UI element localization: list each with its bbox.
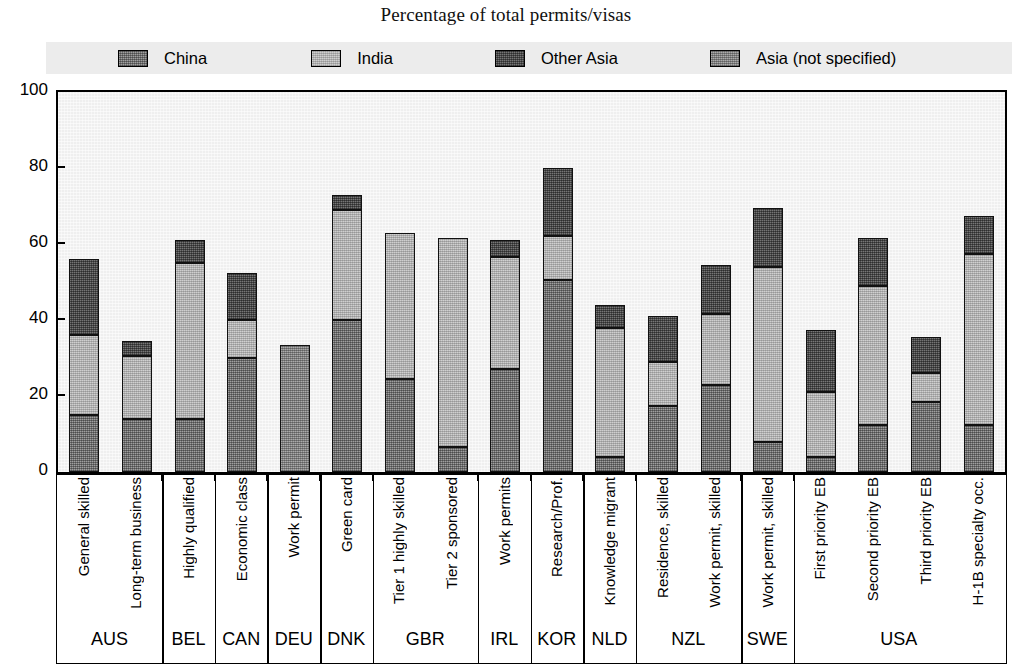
country-label: DNK xyxy=(320,617,373,661)
bar-stack[interactable] xyxy=(911,92,941,472)
bar-segment-india[interactable] xyxy=(332,210,362,320)
category-label: Residence, skilled xyxy=(636,475,689,618)
bar-segment-china[interactable] xyxy=(701,385,731,472)
bar-stack[interactable] xyxy=(701,92,731,472)
bar-segment-other-asia[interactable] xyxy=(964,216,994,254)
category-label: Tier 1 highly skilled xyxy=(373,475,426,618)
bar-segment-india[interactable] xyxy=(385,233,415,379)
group-divider xyxy=(583,475,585,663)
bar-segment-china[interactable] xyxy=(543,280,573,472)
country-label: GBR xyxy=(373,617,478,661)
bar-segment-other-asia[interactable] xyxy=(858,238,888,286)
bar-segment-china[interactable] xyxy=(858,425,888,473)
y-axis-tick-label: 60 xyxy=(6,232,48,252)
bar-segment-india[interactable] xyxy=(595,328,625,457)
bar-segment-asia-not-specified[interactable] xyxy=(280,345,310,472)
country-label: BEL xyxy=(162,617,215,661)
category-label: Green card xyxy=(320,475,373,618)
bar-segment-china[interactable] xyxy=(332,320,362,472)
category-label-text: Knowledge migrant xyxy=(602,477,617,605)
category-label-text: Work permits xyxy=(497,477,512,565)
bar-segment-india[interactable] xyxy=(438,238,468,447)
group-divider xyxy=(215,475,217,663)
bar-segment-other-asia[interactable] xyxy=(227,273,257,321)
bar-segment-china[interactable] xyxy=(964,425,994,473)
bar-segment-india[interactable] xyxy=(543,236,573,280)
bar-segment-china[interactable] xyxy=(69,415,99,472)
bar-segment-india[interactable] xyxy=(911,373,941,402)
category-label-text: H-1B specialty occ. xyxy=(970,477,985,605)
y-axis-tick-label: 100 xyxy=(6,80,48,100)
bar-segment-china[interactable] xyxy=(385,379,415,472)
bar-stack[interactable] xyxy=(858,92,888,472)
country-label: AUS xyxy=(57,617,162,661)
bar-segment-other-asia[interactable] xyxy=(595,305,625,328)
bar-segment-china[interactable] xyxy=(438,447,468,472)
bar-segment-india[interactable] xyxy=(753,267,783,442)
bar-segment-india[interactable] xyxy=(227,320,257,358)
category-label: Highly qualified xyxy=(162,475,215,618)
category-label: Knowledge migrant xyxy=(583,475,636,618)
bar-segment-india[interactable] xyxy=(858,286,888,425)
category-label: Second priority EB xyxy=(846,475,899,618)
bar-stack[interactable] xyxy=(332,92,362,472)
x-axis-group-tick xyxy=(161,472,163,481)
category-label: Work permit xyxy=(267,475,320,618)
bar-segment-other-asia[interactable] xyxy=(175,240,205,263)
bar-stack[interactable] xyxy=(490,92,520,472)
bar-segment-other-asia[interactable] xyxy=(490,240,520,257)
category-label: First priority EB xyxy=(794,475,847,618)
bar-segment-china[interactable] xyxy=(122,419,152,472)
bar-segment-china[interactable] xyxy=(648,406,678,473)
category-label: Long-term business xyxy=(110,475,163,618)
bar-segment-india[interactable] xyxy=(175,263,205,419)
bar-segment-other-asia[interactable] xyxy=(701,265,731,314)
bar-segment-other-asia[interactable] xyxy=(806,330,836,393)
x-axis-group-tick xyxy=(372,472,374,481)
bar-segment-china[interactable] xyxy=(595,457,625,472)
bar-segment-other-asia[interactable] xyxy=(69,259,99,335)
group-divider xyxy=(794,475,796,663)
bar-segment-china[interactable] xyxy=(490,369,520,472)
bar-segment-other-asia[interactable] xyxy=(648,316,678,362)
country-label: USA xyxy=(794,617,1004,661)
bar-segment-china[interactable] xyxy=(806,457,836,472)
bar-segment-india[interactable] xyxy=(701,314,731,384)
bar-segment-other-asia[interactable] xyxy=(753,208,783,267)
bar-stack[interactable] xyxy=(227,92,257,472)
group-divider xyxy=(741,475,743,663)
bar-stack[interactable] xyxy=(175,92,205,472)
bar-segment-india[interactable] xyxy=(806,392,836,457)
bar-segment-india[interactable] xyxy=(490,257,520,369)
bar-segment-china[interactable] xyxy=(227,358,257,472)
bar-segment-india[interactable] xyxy=(648,362,678,406)
bar-stack[interactable] xyxy=(753,92,783,472)
x-axis-group-tick xyxy=(635,472,637,481)
category-label: Tier 2 sponsored xyxy=(425,475,478,618)
bar-segment-china[interactable] xyxy=(753,442,783,472)
bar-stack[interactable] xyxy=(122,92,152,472)
group-divider xyxy=(531,475,533,663)
bar-segment-other-asia[interactable] xyxy=(332,195,362,210)
bar-stack[interactable] xyxy=(964,92,994,472)
bar-segment-india[interactable] xyxy=(122,356,152,419)
bar-stack[interactable] xyxy=(438,92,468,472)
bar-stack[interactable] xyxy=(543,92,573,472)
category-label-text: Research/Prof. xyxy=(549,477,564,577)
category-label: Third priority EB xyxy=(899,475,952,618)
bar-segment-china[interactable] xyxy=(911,402,941,472)
bar-segment-china[interactable] xyxy=(175,419,205,472)
bar-segment-india[interactable] xyxy=(69,335,99,415)
bar-stack[interactable] xyxy=(280,92,310,472)
bar-segment-other-asia[interactable] xyxy=(122,341,152,356)
bar-stack[interactable] xyxy=(806,92,836,472)
bar-stack[interactable] xyxy=(69,92,99,472)
bar-stack[interactable] xyxy=(595,92,625,472)
category-label-text: Tier 1 highly skilled xyxy=(391,477,406,604)
bar-segment-other-asia[interactable] xyxy=(543,168,573,236)
bar-stack[interactable] xyxy=(385,92,415,472)
bar-segment-other-asia[interactable] xyxy=(911,337,941,373)
bar-segment-india[interactable] xyxy=(964,254,994,425)
category-label-text: Economic class xyxy=(234,477,249,581)
bar-stack[interactable] xyxy=(648,92,678,472)
